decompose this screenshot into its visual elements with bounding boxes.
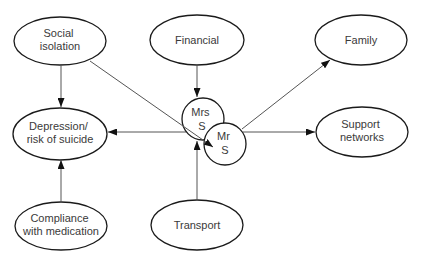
label-line: Mrs bbox=[191, 106, 210, 118]
node-family-label: Family bbox=[345, 34, 378, 46]
node-depression-label: Depression/ risk of suicide bbox=[27, 120, 94, 145]
label-line: Compliance bbox=[30, 212, 88, 224]
node-support-networks-label: Support networks bbox=[340, 118, 385, 143]
label-line: Mr bbox=[217, 130, 230, 142]
label-line: S bbox=[198, 120, 205, 132]
label-line: Support bbox=[341, 118, 380, 130]
label-line: risk of suicide bbox=[27, 133, 94, 145]
label-line: Depression/ bbox=[29, 120, 89, 132]
node-transport: Transport bbox=[151, 200, 243, 250]
label-line: with medication bbox=[22, 225, 99, 237]
node-social-isolation-label: Social isolation bbox=[40, 27, 80, 52]
node-compliance-label: Compliance with medication bbox=[22, 212, 99, 237]
edge-mr-s-to-family bbox=[242, 60, 330, 129]
node-financial: Financial bbox=[150, 15, 244, 65]
node-transport-label: Transport bbox=[174, 219, 221, 231]
label-line: Financial bbox=[175, 34, 219, 46]
label-line: networks bbox=[340, 131, 385, 143]
node-compliance: Compliance with medication bbox=[15, 202, 107, 250]
label-line: Social bbox=[43, 27, 73, 39]
node-depression: Depression/ risk of suicide bbox=[13, 108, 107, 160]
label-line: Family bbox=[345, 34, 378, 46]
node-financial-label: Financial bbox=[175, 34, 219, 46]
label-line: S bbox=[221, 144, 228, 156]
label-line: Transport bbox=[174, 219, 221, 231]
node-family: Family bbox=[315, 15, 407, 65]
node-support-networks: Support networks bbox=[316, 107, 408, 157]
relationship-diagram: Social isolation Financial Family Depres… bbox=[0, 0, 422, 259]
label-line: isolation bbox=[40, 40, 80, 52]
node-social-isolation: Social isolation bbox=[14, 17, 106, 65]
